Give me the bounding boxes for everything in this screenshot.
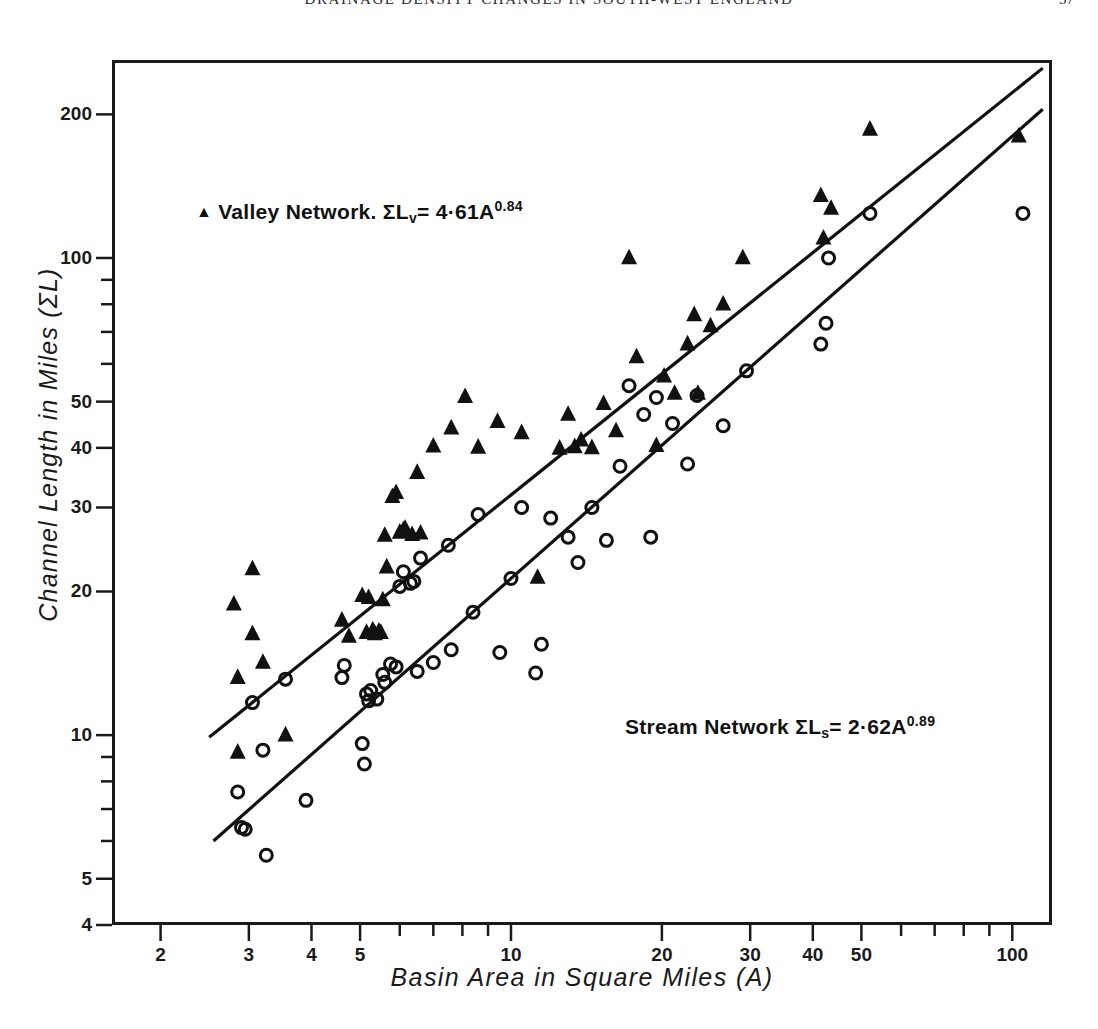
valley-network-legend: ▲Valley Network. ΣLv= 4·61A0.84 bbox=[196, 198, 523, 226]
running-head-title: DRAINAGE DENSITY CHANGES IN SOUTH-WEST E… bbox=[0, 0, 1098, 8]
y-tick-label: 10 bbox=[22, 724, 92, 746]
valley-legend-symbol: ΣL bbox=[383, 200, 409, 223]
valley-legend-exponent: 0.84 bbox=[494, 198, 522, 214]
valley-legend-text: Valley Network. bbox=[218, 200, 377, 223]
y-tick-label: 200 bbox=[22, 103, 92, 125]
x-axis-title: Basin Area in Square Miles (A) bbox=[112, 963, 1052, 992]
stream-network-legend: Stream Network ΣLs= 2·62A0.89 bbox=[625, 713, 935, 741]
stream-legend-equals: = 2·62A bbox=[829, 715, 906, 738]
y-tick-label: 5 bbox=[22, 868, 92, 890]
triangle-marker-icon: ▲ bbox=[196, 203, 212, 220]
page-number: 57 bbox=[1059, 0, 1074, 8]
y-tick-label: 4 bbox=[22, 914, 92, 936]
plot-frame bbox=[112, 60, 1052, 925]
stream-legend-text: Stream Network bbox=[625, 715, 789, 738]
stream-legend-symbol: ΣL bbox=[795, 715, 821, 738]
running-head: DRAINAGE DENSITY CHANGES IN SOUTH-WEST E… bbox=[0, 0, 1098, 11]
figure-page: DRAINAGE DENSITY CHANGES IN SOUTH-WEST E… bbox=[0, 0, 1098, 1029]
stream-legend-exponent: 0.89 bbox=[907, 713, 935, 729]
valley-legend-subscript: v bbox=[409, 210, 417, 226]
y-axis-title: Channel Length in Miles (ΣL) bbox=[34, 165, 63, 725]
valley-legend-equals: = 4·61A bbox=[417, 200, 494, 223]
